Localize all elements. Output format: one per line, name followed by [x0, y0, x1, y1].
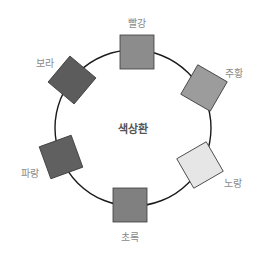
swatch-green	[113, 188, 147, 222]
swatch-red	[120, 35, 154, 69]
label-orange: 주황	[225, 65, 244, 80]
diagram-title: 색상환	[118, 120, 148, 136]
label-red: 빨강	[128, 15, 147, 30]
color-wheel-diagram: 색상환 빨강 주황 노랑 초록 파랑 보라	[0, 0, 261, 256]
label-yellow: 노랑	[224, 175, 243, 190]
swatch-yellow	[177, 142, 223, 188]
swatch-blue	[39, 135, 83, 179]
label-blue: 파랑	[21, 165, 40, 180]
label-green: 초록	[121, 229, 140, 244]
label-purple: 보라	[36, 55, 55, 70]
